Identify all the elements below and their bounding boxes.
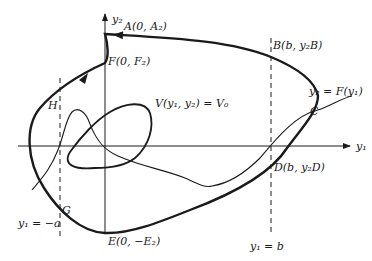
left-line-label: y₁ = −a	[18, 218, 61, 229]
phase-plane-diagram: y₂ y₁ A(0, A₂) B(b, y₂B) C D(b, y₂D) E(0…	[0, 0, 372, 261]
point-G-label: G	[62, 205, 71, 216]
trajectory-arrow-top	[113, 31, 123, 40]
point-C-label: C	[310, 106, 318, 117]
y2-axis-label: y₂	[112, 14, 123, 25]
point-A-label: A(0, A₂)	[124, 21, 167, 32]
right-line-label: y₁ = b	[250, 241, 284, 252]
graph-F	[32, 96, 352, 190]
closed-trajectory	[30, 34, 318, 233]
point-E-label: E(0, −E₂)	[108, 236, 160, 247]
point-B-label: B(b, y₂B)	[273, 40, 322, 51]
level-curve-label: V(y₁, y₂) = V₀	[155, 98, 228, 109]
level-curve	[68, 104, 152, 168]
graph-F-label: y₂ = F(y₁)	[309, 86, 363, 97]
y1-axis-label: y₁	[356, 141, 367, 152]
point-F-label: F(0, F₂)	[108, 56, 150, 67]
point-D-label: D(b, y₂D)	[274, 162, 325, 173]
point-H-label: H	[48, 100, 58, 111]
